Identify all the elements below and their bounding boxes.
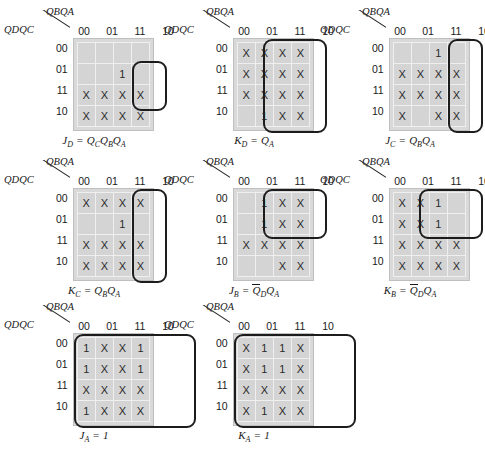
- kmap-cell-r0-c2[interactable]: 1: [429, 193, 447, 214]
- kmap-cell-r2-c3[interactable]: X: [291, 380, 309, 401]
- kmap-cell-r0-c3[interactable]: 1: [131, 338, 149, 359]
- kmap-cell-r1-c0[interactable]: [237, 214, 255, 235]
- kmap-cell-r3-c0[interactable]: X: [77, 256, 95, 277]
- kmap-cell-r2-c1[interactable]: X: [95, 85, 113, 106]
- kmap-cell-r1-c2[interactable]: X: [273, 64, 291, 85]
- kmap-cell-r1-c0[interactable]: X: [393, 214, 411, 235]
- kmap-cell-r1-c2[interactable]: X: [113, 359, 131, 380]
- kmap-cell-r1-c1[interactable]: 1: [255, 214, 273, 235]
- kmap-cell-r2-c2[interactable]: X: [429, 85, 447, 106]
- kmap-cell-r3-c0[interactable]: X: [237, 401, 255, 422]
- kmap-cell-r1-c0[interactable]: 1: [77, 359, 95, 380]
- kmap-cell-r0-c1[interactable]: 1: [255, 338, 273, 359]
- kmap-cell-r2-c3[interactable]: X: [447, 85, 465, 106]
- kmap-cell-r3-c1[interactable]: [255, 256, 273, 277]
- kmap-cell-r0-c1[interactable]: X: [95, 338, 113, 359]
- kmap-cell-r2-c1[interactable]: X: [411, 85, 429, 106]
- kmap-cell-r1-c1[interactable]: 1: [255, 359, 273, 380]
- kmap-cell-r3-c3[interactable]: X: [131, 256, 149, 277]
- kmap-cell-r2-c0[interactable]: X: [77, 380, 95, 401]
- kmap-cell-r3-c3[interactable]: X: [291, 106, 309, 127]
- kmap-cell-r3-c3[interactable]: X: [447, 256, 465, 277]
- kmap-cell-r2-c3[interactable]: X: [131, 85, 149, 106]
- kmap-cell-r3-c2[interactable]: X: [273, 401, 291, 422]
- kmap-cell-r0-c0[interactable]: [77, 43, 95, 64]
- kmap-cell-r0-c0[interactable]: 1: [77, 338, 95, 359]
- kmap-cell-r2-c0[interactable]: X: [77, 85, 95, 106]
- kmap-cell-r2-c2[interactable]: X: [273, 235, 291, 256]
- kmap-cell-r2-c2[interactable]: X: [273, 85, 291, 106]
- kmap-cell-r0-c0[interactable]: [393, 43, 411, 64]
- kmap-cell-r3-c1[interactable]: X: [95, 106, 113, 127]
- kmap-cell-r2-c3[interactable]: X: [447, 235, 465, 256]
- kmap-cell-r2-c1[interactable]: X: [95, 380, 113, 401]
- kmap-cell-r1-c1[interactable]: [95, 64, 113, 85]
- kmap-cell-r3-c1[interactable]: [411, 106, 429, 127]
- kmap-cell-r3-c0[interactable]: 1: [77, 401, 95, 422]
- kmap-cell-r3-c3[interactable]: X: [131, 401, 149, 422]
- kmap-cell-r3-c1[interactable]: 1: [255, 401, 273, 422]
- kmap-cell-r3-c3[interactable]: X: [291, 256, 309, 277]
- kmap-cell-r0-c1[interactable]: [95, 43, 113, 64]
- kmap-cell-r0-c0[interactable]: [237, 193, 255, 214]
- kmap-cell-r1-c1[interactable]: X: [411, 214, 429, 235]
- kmap-cell-r1-c3[interactable]: X: [291, 64, 309, 85]
- kmap-cell-r2-c2[interactable]: X: [113, 235, 131, 256]
- kmap-cell-r1-c0[interactable]: [77, 64, 95, 85]
- kmap-cell-r1-c3[interactable]: [131, 214, 149, 235]
- kmap-cell-r0-c3[interactable]: X: [291, 193, 309, 214]
- kmap-cell-r0-c1[interactable]: X: [255, 43, 273, 64]
- kmap-cell-r1-c0[interactable]: [77, 214, 95, 235]
- kmap-cell-r0-c1[interactable]: X: [95, 193, 113, 214]
- kmap-cell-r1-c2[interactable]: 1: [429, 214, 447, 235]
- kmap-cell-r0-c3[interactable]: X: [131, 193, 149, 214]
- kmap-cell-r0-c2[interactable]: X: [113, 338, 131, 359]
- kmap-cell-r1-c3[interactable]: X: [291, 214, 309, 235]
- kmap-cell-r2-c3[interactable]: X: [131, 380, 149, 401]
- kmap-cell-r2-c3[interactable]: X: [291, 85, 309, 106]
- kmap-cell-r2-c2[interactable]: X: [429, 235, 447, 256]
- kmap-cell-r0-c3[interactable]: [131, 43, 149, 64]
- kmap-cell-r3-c3[interactable]: X: [131, 106, 149, 127]
- kmap-cell-r1-c3[interactable]: 1: [131, 359, 149, 380]
- kmap-cell-r2-c0[interactable]: X: [393, 85, 411, 106]
- kmap-cell-r3-c1[interactable]: 1: [255, 106, 273, 127]
- kmap-cell-r2-c3[interactable]: X: [291, 235, 309, 256]
- kmap-cell-r3-c3[interactable]: X: [291, 401, 309, 422]
- kmap-cell-r3-c1[interactable]: X: [411, 256, 429, 277]
- kmap-cell-r2-c3[interactable]: X: [131, 235, 149, 256]
- kmap-cell-r2-c2[interactable]: X: [113, 380, 131, 401]
- kmap-cell-r1-c3[interactable]: [131, 64, 149, 85]
- kmap-cell-r1-c1[interactable]: X: [411, 64, 429, 85]
- kmap-cell-r1-c3[interactable]: X: [447, 64, 465, 85]
- kmap-cell-r1-c0[interactable]: X: [237, 64, 255, 85]
- kmap-cell-r3-c3[interactable]: X: [447, 106, 465, 127]
- kmap-cell-r1-c0[interactable]: X: [393, 64, 411, 85]
- kmap-cell-r0-c2[interactable]: X: [273, 193, 291, 214]
- kmap-cell-r1-c3[interactable]: X: [291, 359, 309, 380]
- kmap-cell-r1-c0[interactable]: X: [237, 359, 255, 380]
- kmap-cell-r0-c2[interactable]: X: [273, 43, 291, 64]
- kmap-cell-r0-c2[interactable]: 1: [273, 338, 291, 359]
- kmap-cell-r0-c3[interactable]: X: [291, 338, 309, 359]
- kmap-cell-r1-c2[interactable]: X: [429, 64, 447, 85]
- kmap-cell-r0-c0[interactable]: X: [77, 193, 95, 214]
- kmap-cell-r1-c1[interactable]: X: [255, 64, 273, 85]
- kmap-cell-r2-c0[interactable]: X: [237, 235, 255, 256]
- kmap-cell-r0-c3[interactable]: [447, 43, 465, 64]
- kmap-cell-r0-c0[interactable]: X: [237, 338, 255, 359]
- kmap-cell-r1-c2[interactable]: 1: [273, 359, 291, 380]
- kmap-cell-r2-c1[interactable]: X: [411, 235, 429, 256]
- kmap-cell-r2-c1[interactable]: X: [95, 235, 113, 256]
- kmap-cell-r1-c2[interactable]: 1: [113, 214, 131, 235]
- kmap-cell-r3-c1[interactable]: X: [95, 401, 113, 422]
- kmap-cell-r3-c2[interactable]: X: [113, 401, 131, 422]
- kmap-cell-r2-c1[interactable]: X: [255, 380, 273, 401]
- kmap-cell-r3-c0[interactable]: [237, 106, 255, 127]
- kmap-cell-r1-c2[interactable]: X: [273, 214, 291, 235]
- kmap-cell-r3-c2[interactable]: X: [273, 256, 291, 277]
- kmap-cell-r2-c1[interactable]: X: [255, 235, 273, 256]
- kmap-cell-r0-c1[interactable]: X: [411, 193, 429, 214]
- kmap-cell-r2-c2[interactable]: X: [113, 85, 131, 106]
- kmap-cell-r0-c3[interactable]: X: [291, 43, 309, 64]
